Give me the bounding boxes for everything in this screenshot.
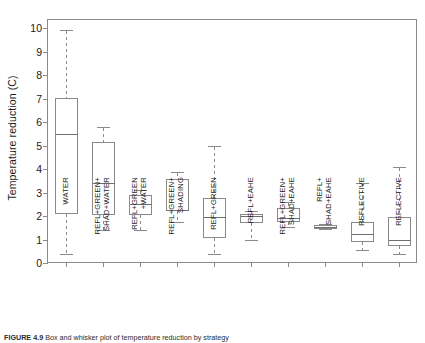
figure-container: Temperature reduction (C) 012345678910 W… bbox=[0, 0, 425, 343]
x-tick-label: REFL+GREEN +WATER bbox=[131, 177, 148, 267]
x-tick-label: REFL+GREEN+ SHAD+EAHE bbox=[279, 177, 296, 267]
x-tick-label: REFL+GREEN+ SHADING bbox=[168, 177, 185, 267]
figure-caption: FIGURE 4.9 Box and whisker plot of tempe… bbox=[4, 333, 422, 342]
x-tick-label: REFLECTIVE bbox=[395, 177, 404, 267]
x-tick-label: REFL+GREEN bbox=[210, 177, 219, 267]
x-tick-label: WATER bbox=[62, 177, 71, 267]
x-tick-label: REFL+ SHAD+EAHE bbox=[316, 177, 333, 267]
x-tick-label: REFLECTIVE bbox=[358, 177, 367, 267]
caption-label: FIGURE 4.9 bbox=[4, 333, 43, 342]
boxplot-series bbox=[0, 0, 425, 343]
x-tick-label: REFL+GREEN+ SHAD+WATER bbox=[94, 177, 111, 267]
x-tick-label: REFL+EAHE bbox=[247, 177, 256, 267]
caption-text: Box and whisker plot of temperature redu… bbox=[45, 333, 229, 342]
